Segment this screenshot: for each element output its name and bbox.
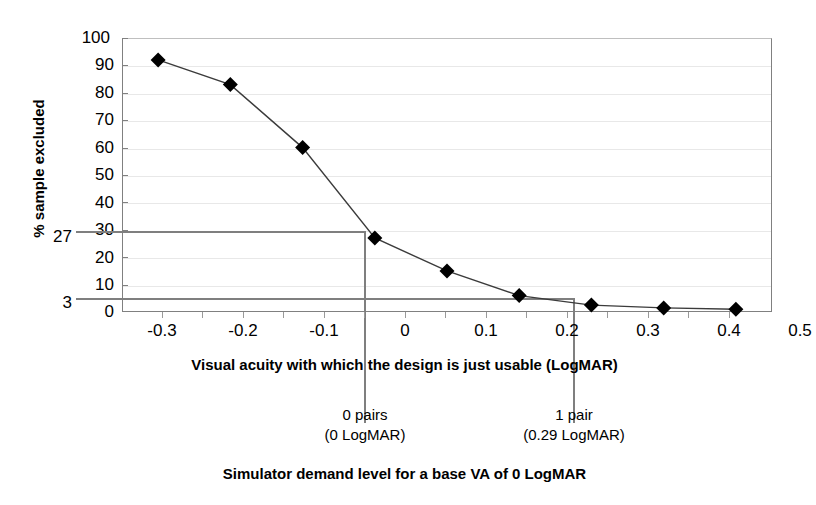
- figure-caption: Simulator demand level for a base VA of …: [0, 465, 809, 482]
- annotation-1-pair-label: 1 pair: [484, 405, 664, 425]
- annotation-0-pairs-label: 0 pairs: [275, 405, 455, 425]
- data-point-marker: [656, 300, 671, 315]
- data-point-marker: [151, 52, 166, 67]
- annotation-1-pair-sublabel: (0.29 LogMAR): [484, 425, 664, 445]
- data-point-marker: [440, 263, 455, 278]
- data-point-marker: [728, 302, 743, 317]
- data-point-marker: [367, 231, 382, 246]
- annotation-1-pair: 1 pair (0.29 LogMAR): [484, 405, 664, 445]
- x-axis-title: Visual acuity with which the design is j…: [0, 356, 809, 373]
- annotation-0-pairs-sublabel: (0 LogMAR): [275, 425, 455, 445]
- data-point-marker: [584, 298, 599, 313]
- data-point-marker: [512, 288, 527, 303]
- annotation-0-pairs: 0 pairs (0 LogMAR): [275, 405, 455, 445]
